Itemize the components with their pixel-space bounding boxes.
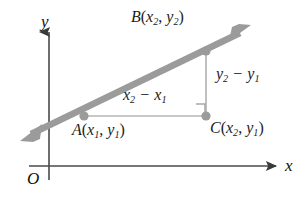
close-paren: ) — [120, 121, 125, 138]
point-a-dot — [79, 111, 88, 120]
point-a-label: A(x1, y1) — [72, 122, 125, 138]
point-b-dot — [201, 46, 210, 55]
point-c-name: C — [210, 119, 221, 136]
y-axis-label: y — [41, 13, 49, 30]
close-paren: ) — [179, 8, 184, 25]
run-sub-2: 1 — [161, 94, 166, 105]
line-arrowhead-right — [229, 24, 251, 41]
minus-operator: − — [135, 86, 154, 103]
origin-label: O — [27, 170, 39, 187]
x-axis-label: x — [285, 157, 293, 174]
point-b-name: B — [131, 8, 141, 25]
point-a-name: A — [72, 121, 82, 138]
minus-operator: − — [228, 65, 247, 82]
point-c-label: C(x2, y1) — [210, 120, 264, 136]
rise-expression-label: y2−y1 — [216, 66, 260, 82]
slope-diagram-figure: y x O B(x2, y2) A(x1, y1) C(x2, y1) x2−x… — [0, 0, 303, 205]
line-arrowhead-left — [20, 124, 42, 142]
run-expression-label: x2−x1 — [123, 87, 167, 103]
rise-sub-2: 1 — [254, 73, 259, 84]
point-b-label: B(x2, y2) — [131, 9, 184, 25]
close-paren: ) — [258, 119, 263, 136]
right-angle-marker — [196, 104, 205, 113]
